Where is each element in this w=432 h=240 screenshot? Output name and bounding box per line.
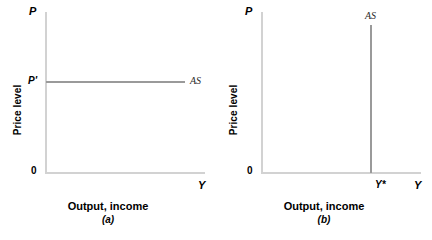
as-curve-label-a: AS: [190, 76, 201, 86]
panel-index-b: (b): [216, 214, 432, 227]
x-axis-line-b: [261, 172, 421, 174]
x-axis-title-a: Output, income: [0, 200, 216, 214]
y-axis-title-b: Price level: [229, 70, 239, 150]
y-axis-line-b: [261, 12, 263, 174]
x-axis-title-b: Output, income: [216, 200, 432, 214]
as-curve-label-b: AS: [365, 11, 376, 21]
panel-a: P Y Price level P' 0 AS Output, income (…: [0, 0, 216, 240]
y-axis-endpoint-label-b: P: [245, 6, 252, 17]
as-curve-vertical: [370, 25, 372, 173]
origin-label-a: 0: [31, 166, 37, 176]
as-curve-horizontal: [46, 81, 185, 83]
x-tick-label-y-star: Y*: [375, 180, 386, 190]
x-axis-line-a: [45, 172, 205, 174]
x-axis-endpoint-label-b: Y: [414, 180, 421, 191]
y-tick-label-p-prime: P': [28, 76, 37, 86]
x-axis-endpoint-label-a: Y: [198, 180, 205, 191]
caption-a: Output, income (a): [0, 200, 216, 226]
y-axis-endpoint-label-a: P: [29, 6, 36, 17]
aggregate-supply-figure: P Y Price level P' 0 AS Output, income (…: [0, 0, 432, 240]
panel-b: P Y Price level 0 Y* AS Output, income (…: [216, 0, 432, 240]
y-axis-line-a: [45, 12, 47, 174]
caption-b: Output, income (b): [216, 200, 432, 226]
panel-index-a: (a): [0, 214, 216, 227]
y-axis-title-a: Price level: [13, 70, 23, 150]
origin-label-b: 0: [247, 166, 253, 176]
